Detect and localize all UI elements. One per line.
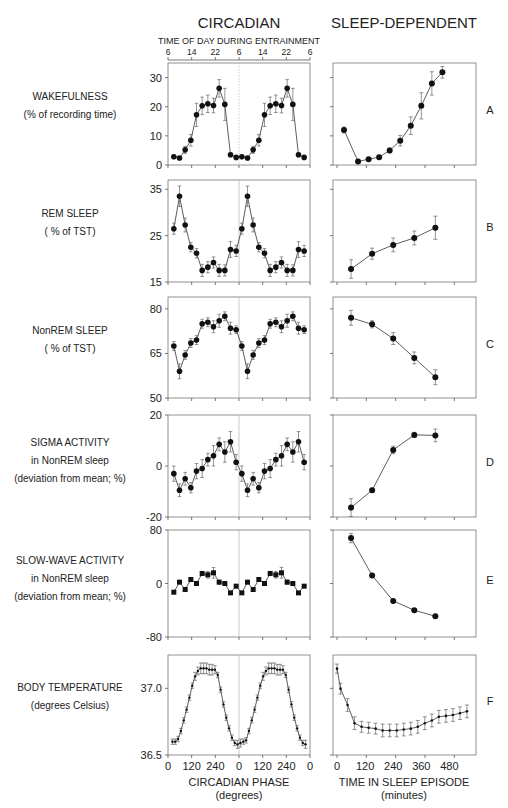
panel-F: BODY TEMPERATURE(degrees Celsius)F36.537… — [17, 655, 493, 761]
panel-letter: F — [487, 695, 494, 707]
svg-text:80: 80 — [150, 524, 162, 536]
top-axis-ticks: 61422614226 — [166, 47, 313, 60]
panel-letter: B — [486, 221, 493, 233]
figure: CIRCADIAN SLEEP-DEPENDENT TIME OF DAY DU… — [0, 0, 508, 808]
panel-letter: E — [486, 574, 493, 586]
svg-text:240: 240 — [384, 760, 402, 772]
svg-text:0: 0 — [156, 578, 162, 590]
svg-text:35: 35 — [150, 183, 162, 195]
row-label: BODY TEMPERATURE — [17, 682, 123, 693]
row-label: ( % of TST) — [45, 343, 96, 354]
row-label: (% of recording time) — [24, 109, 117, 120]
sleep-dependent-header: SLEEP-DEPENDENT — [331, 14, 477, 31]
svg-text:240: 240 — [206, 760, 224, 772]
svg-text:120: 120 — [182, 760, 200, 772]
svg-text:14: 14 — [187, 47, 197, 57]
svg-text:10: 10 — [150, 130, 162, 142]
svg-text:480: 480 — [440, 760, 458, 772]
svg-text:0: 0 — [307, 760, 313, 772]
svg-text:36.5: 36.5 — [141, 749, 162, 761]
panel-letter: A — [486, 104, 494, 116]
row-label: NonREM SLEEP — [32, 325, 108, 336]
svg-text:0: 0 — [334, 760, 340, 772]
row-label: WAKEFULNESS — [32, 91, 108, 102]
row-label: SIGMA ACTIVITY — [31, 437, 110, 448]
panel-B: REM SLEEP( % of TST)B152535 — [41, 180, 493, 288]
svg-text:-20: -20 — [146, 511, 162, 523]
svg-text:15: 15 — [150, 276, 162, 288]
svg-text:20: 20 — [150, 409, 162, 421]
svg-text:120: 120 — [253, 760, 271, 772]
svg-text:0: 0 — [165, 760, 171, 772]
svg-text:22: 22 — [282, 47, 292, 57]
svg-text:0: 0 — [156, 460, 162, 472]
top-axis-label: TIME OF DAY DURING ENTRAINMENT — [158, 36, 321, 46]
row-label: (degrees Celsius) — [31, 700, 109, 711]
svg-text:20: 20 — [150, 101, 162, 113]
svg-text:6: 6 — [166, 47, 171, 57]
svg-text:120: 120 — [356, 760, 374, 772]
svg-text:-80: -80 — [146, 631, 162, 643]
svg-text:25: 25 — [150, 230, 162, 242]
panel-A: WAKEFULNESS(% of recording time)A0102030 — [24, 63, 495, 171]
row-label: SLOW-WAVE ACTIVITY — [16, 555, 124, 566]
row-label: in NonREM sleep — [31, 455, 109, 466]
row-label: (deviation from mean; %) — [14, 591, 126, 602]
circadian-header: CIRCADIAN — [198, 14, 281, 31]
panel-E: SLOW-WAVE ACTIVITYin NonREM sleep(deviat… — [14, 524, 494, 643]
svg-text:0: 0 — [236, 760, 242, 772]
row-label: REM SLEEP — [41, 208, 99, 219]
x-axis-sublabel-right: (minutes) — [381, 789, 427, 801]
svg-text:65: 65 — [150, 347, 162, 359]
panel-C: NonREM SLEEP( % of TST)C506580 — [32, 297, 494, 404]
svg-text:37.0: 37.0 — [141, 682, 162, 694]
row-label: ( % of TST) — [45, 226, 96, 237]
svg-text:50: 50 — [150, 392, 162, 404]
x-axes: 0120240012024000120240360480 — [165, 760, 459, 772]
x-axis-label-right: TIME IN SLEEP EPISODE — [339, 776, 470, 788]
svg-text:240: 240 — [277, 760, 295, 772]
svg-text:6: 6 — [308, 47, 313, 57]
svg-text:30: 30 — [150, 72, 162, 84]
panel-letter: D — [486, 456, 494, 468]
svg-text:0: 0 — [156, 159, 162, 171]
row-label: (deviation from mean; %) — [14, 473, 126, 484]
panels: WAKEFULNESS(% of recording time)A0102030… — [14, 63, 494, 761]
svg-text:14: 14 — [258, 47, 268, 57]
svg-text:22: 22 — [211, 47, 221, 57]
panel-D: SIGMA ACTIVITYin NonREM sleep(deviation … — [14, 409, 494, 523]
svg-text:6: 6 — [237, 47, 242, 57]
row-label: in NonREM sleep — [31, 573, 109, 584]
panel-letter: C — [486, 338, 494, 350]
x-axis-sublabel-left: (degrees) — [215, 789, 262, 801]
svg-text:80: 80 — [150, 303, 162, 315]
x-axis-label-left: CIRCADIAN PHASE — [189, 776, 290, 788]
svg-text:360: 360 — [412, 760, 430, 772]
